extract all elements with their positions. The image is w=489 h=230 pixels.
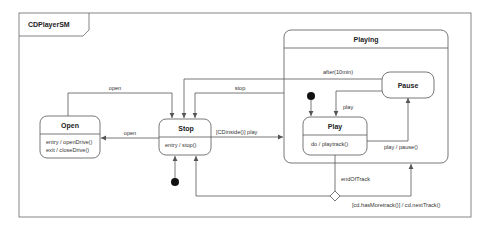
- transition-playing-to-stop: [195, 93, 284, 118]
- label-stop-to-open: open: [124, 130, 136, 136]
- label-play-to-choice: endOfTrack: [341, 176, 370, 182]
- state-pause-name: Pause: [398, 82, 419, 89]
- state-stop-name: Stop: [178, 125, 194, 133]
- diagram-title: CDPlayerSM: [28, 21, 70, 29]
- label-pause-to-play: play: [343, 104, 353, 110]
- state-play[interactable]: Play do / playtrack(): [303, 117, 367, 155]
- state-open-exit: exit / closeDrive(): [46, 147, 89, 153]
- state-play-name: Play: [328, 123, 343, 131]
- state-playing-name: Playing: [354, 36, 379, 44]
- state-stop[interactable]: Stop entry / stop(): [159, 119, 211, 155]
- choice-pseudostate-icon: [330, 191, 340, 201]
- state-open[interactable]: Open entry / openDrive() exit / closeDri…: [40, 116, 100, 158]
- transition-open-to-stop: [68, 93, 172, 118]
- label-open-to-stop: open: [109, 85, 121, 91]
- state-machine-diagram: CDPlayerSM Playing open stop: [0, 0, 489, 230]
- initial-state-playing-icon: [307, 92, 315, 100]
- state-open-name: Open: [61, 122, 79, 130]
- state-pause[interactable]: Pause: [382, 72, 434, 98]
- initial-state-icon: [171, 178, 179, 186]
- label-stop-to-play: [CDinside()] play: [216, 129, 258, 135]
- label-pause-to-stop: after(10min): [323, 69, 353, 75]
- state-stop-entry: entry / stop(): [165, 142, 197, 148]
- label-play-to-pause: play / pause(): [384, 144, 418, 150]
- state-open-entry: entry / openDrive(): [46, 139, 92, 145]
- state-play-do: do / playtrack(): [311, 141, 348, 147]
- label-choice-to-playing: [cd.hasMoretrack()] / cd.nextTrack(): [352, 202, 441, 208]
- label-playing-to-stop: stop: [235, 85, 246, 91]
